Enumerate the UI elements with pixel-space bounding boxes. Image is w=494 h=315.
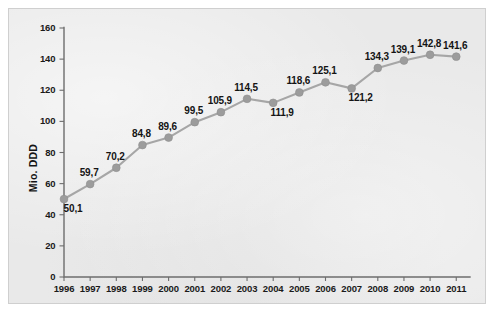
data-point-label: 111,9 <box>264 107 300 118</box>
data-point-label: 59,7 <box>71 167 107 178</box>
y-axis-tick-label: 0 <box>20 271 60 282</box>
y-axis-tick-label: 80 <box>20 147 60 158</box>
data-point-label: 50,1 <box>55 203 91 214</box>
chart-series-line <box>64 55 456 199</box>
y-axis-tick-label: 160 <box>20 22 60 33</box>
data-point-label: 89,6 <box>150 121 186 132</box>
data-point-label: 114,5 <box>228 82 264 93</box>
x-axis-tick-label: 2011 <box>439 283 473 294</box>
y-axis-tick-label: 20 <box>20 240 60 251</box>
y-axis-tick-label: 40 <box>20 209 60 220</box>
chart-data-markers <box>60 51 460 203</box>
data-point-label: 99,5 <box>176 105 212 116</box>
y-axis-tick-label: 100 <box>20 115 60 126</box>
data-point-label: 118,6 <box>280 75 316 86</box>
data-point-label: 105,9 <box>202 95 238 106</box>
data-point-label: 141,6 <box>437 40 473 51</box>
y-axis-tick-label: 140 <box>20 53 60 64</box>
data-point-label: 70,2 <box>97 151 133 162</box>
chart-figure: Mio. DDD 020406080100120140160 199619971… <box>0 0 494 315</box>
y-axis-tick-label: 60 <box>20 178 60 189</box>
data-point-label: 121,2 <box>343 92 379 103</box>
y-axis-tick-label: 120 <box>20 84 60 95</box>
data-point-label: 125,1 <box>307 65 343 76</box>
